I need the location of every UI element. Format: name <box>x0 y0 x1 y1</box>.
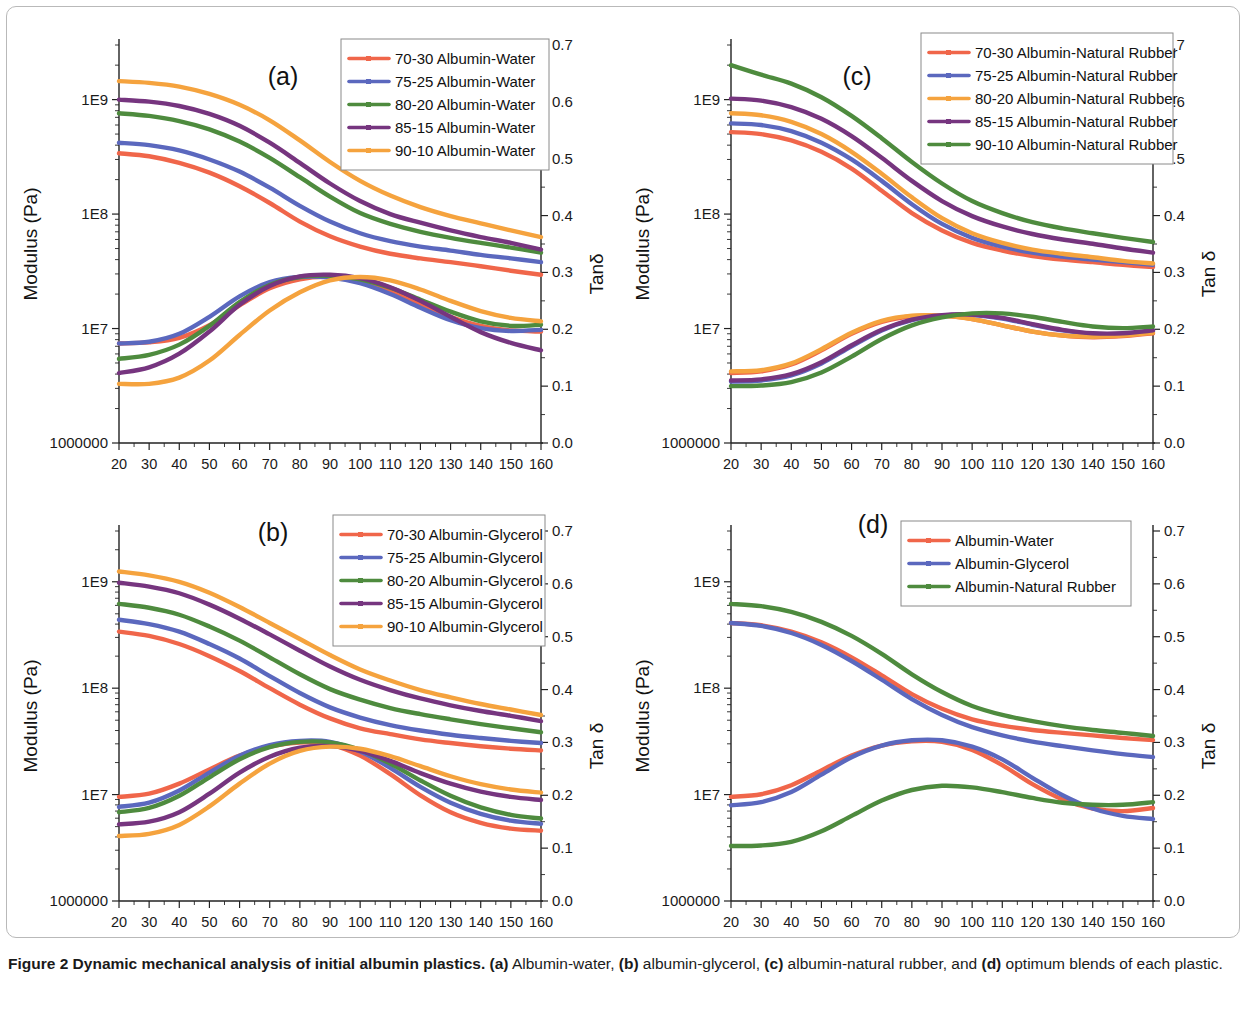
x-tick-label: 140 <box>469 914 493 930</box>
curve <box>731 315 1153 371</box>
y2-tick-label: 0.0 <box>1164 434 1185 451</box>
y2-tick-label: 0.6 <box>1164 575 1185 592</box>
x-tick-label: 50 <box>813 456 829 472</box>
x-tick-label: 20 <box>111 914 127 930</box>
legend-marker <box>946 142 951 147</box>
x-tick-label: 150 <box>499 914 523 930</box>
caption-b-text: albumin-glycerol, <box>639 955 765 972</box>
x-tick-label: 140 <box>1081 456 1105 472</box>
legend-label: 80-20 Albumin-Natural Rubber <box>975 90 1178 107</box>
panel-label: (d) <box>858 510 889 538</box>
y2-axis-title: Tan δ <box>586 723 607 770</box>
y2-tick-label: 0.2 <box>1164 320 1185 337</box>
y-tick-label: 1E7 <box>81 786 108 803</box>
figure-frame: 10000001E71E81E9Modulus (Pa)0.00.10.20.3… <box>6 6 1240 938</box>
y-tick-label: 1E9 <box>693 91 720 108</box>
y2-tick-label: 0.0 <box>552 892 573 909</box>
chart-a: 10000001E71E81E9Modulus (Pa)0.00.10.20.3… <box>11 11 623 481</box>
x-tick-label: 90 <box>322 914 338 930</box>
x-tick-label: 130 <box>1050 456 1074 472</box>
x-tick-label: 30 <box>141 456 157 472</box>
legend-label: 75-25 Albumin-Glycerol <box>387 549 543 566</box>
x-tick-label: 30 <box>141 914 157 930</box>
x-tick-label: 50 <box>201 914 217 930</box>
x-tick-label: 50 <box>813 914 829 930</box>
x-tick-label: 40 <box>171 456 187 472</box>
figure-caption: Figure 2 Dynamic mechanical analysis of … <box>8 952 1234 975</box>
y2-axis-title: Tanδ <box>586 253 607 294</box>
x-tick-label: 20 <box>723 456 739 472</box>
legend-marker <box>926 561 931 566</box>
x-tick-label: 40 <box>171 914 187 930</box>
x-tick-label: 110 <box>991 456 1014 472</box>
caption-a-tag: (a) <box>490 955 509 972</box>
y-tick-label: 1E7 <box>693 786 720 803</box>
y-axis-title: Modulus (Pa) <box>632 188 653 301</box>
x-tick-label: 160 <box>1141 914 1165 930</box>
x-tick-label: 60 <box>232 456 248 472</box>
legend-marker <box>946 119 951 124</box>
y2-axis-title: Tan δ <box>1198 723 1219 770</box>
legend-marker <box>366 125 371 130</box>
legend-label: 70-30 Albumin-Water <box>395 50 535 67</box>
legend-label: 70-30 Albumin-Glycerol <box>387 526 543 543</box>
panel-a-albumin-water: 10000001E71E81E9Modulus (Pa)0.00.10.20.3… <box>11 11 623 481</box>
y2-axis-title: Tan δ <box>1198 251 1219 298</box>
legend-marker <box>926 584 931 589</box>
legend-marker <box>358 624 363 629</box>
y2-tick-label: 0.4 <box>1164 681 1185 698</box>
chart-b: 10000001E71E81E9Modulus (Pa)0.00.10.20.3… <box>11 481 623 939</box>
x-tick-label: 90 <box>322 456 338 472</box>
y-tick-label: 1E9 <box>81 91 108 108</box>
legend-marker <box>358 601 363 606</box>
x-tick-label: 100 <box>960 914 984 930</box>
x-tick-label: 110 <box>379 914 402 930</box>
y-tick-label: 1000000 <box>662 434 720 451</box>
legend-marker <box>366 79 371 84</box>
x-tick-label: 80 <box>292 914 308 930</box>
panel-label: (a) <box>268 62 299 90</box>
legend-marker <box>366 56 371 61</box>
x-tick-label: 60 <box>844 914 860 930</box>
caption-c-text: albumin-natural rubber, and <box>783 955 981 972</box>
legend-marker <box>946 50 951 55</box>
y2-tick-label: 0.2 <box>552 320 573 337</box>
y2-tick-label: 0.5 <box>552 628 573 645</box>
legend-label: 90-10 Albumin-Glycerol <box>387 618 543 635</box>
chart-d: 10000001E71E81E9Modulus (Pa)0.00.10.20.3… <box>623 481 1235 939</box>
y2-tick-label: 0.3 <box>1164 263 1185 280</box>
caption-a-text: Albumin-water, <box>508 955 618 972</box>
x-tick-label: 160 <box>1141 456 1165 472</box>
x-tick-label: 120 <box>408 914 432 930</box>
caption-d-tag: (d) <box>981 955 1001 972</box>
y2-tick-label: 0.7 <box>552 36 573 53</box>
legend-label: Albumin-Glycerol <box>955 555 1069 572</box>
y2-tick-label: 0.0 <box>1164 892 1185 909</box>
curve <box>119 741 541 818</box>
y-tick-label: 1E8 <box>693 205 720 222</box>
panel-label: (c) <box>842 62 871 90</box>
y2-tick-label: 0.1 <box>1164 839 1185 856</box>
caption-lead: Figure 2 Dynamic mechanical analysis of … <box>8 955 485 972</box>
x-tick-label: 140 <box>1081 914 1105 930</box>
x-tick-label: 140 <box>469 456 493 472</box>
x-tick-label: 70 <box>262 914 278 930</box>
x-tick-label: 120 <box>1020 914 1044 930</box>
legend-label: 90-10 Albumin-Natural Rubber <box>975 136 1178 153</box>
y2-tick-label: 0.3 <box>1164 733 1185 750</box>
x-tick-label: 160 <box>529 456 553 472</box>
legend-label: 70-30 Albumin-Natural Rubber <box>975 44 1178 61</box>
x-tick-label: 80 <box>904 914 920 930</box>
y2-tick-label: 0.5 <box>552 150 573 167</box>
y2-tick-label: 0.4 <box>1164 207 1185 224</box>
y-axis-title: Modulus (Pa) <box>20 660 41 773</box>
legend-label: 90-10 Albumin-Water <box>395 142 535 159</box>
y2-tick-label: 0.6 <box>552 93 573 110</box>
x-tick-label: 150 <box>1111 456 1135 472</box>
legend-label: Albumin-Water <box>955 532 1054 549</box>
y-tick-label: 1E7 <box>693 320 720 337</box>
chart-c: 10000001E71E81E9Modulus (Pa)0.00.10.20.3… <box>623 11 1235 481</box>
y-axis-title: Modulus (Pa) <box>632 660 653 773</box>
caption-d-text: optimum blends of each plastic. <box>1001 955 1222 972</box>
legend-marker <box>926 538 931 543</box>
